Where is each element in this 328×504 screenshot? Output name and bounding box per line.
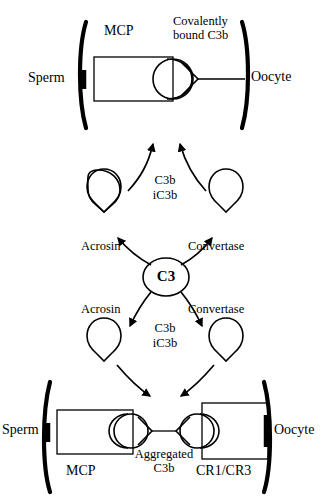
oocyte-membrane-top [242,22,248,128]
c3b-free-upper-left [88,170,120,212]
oocyte-label-top: Oocyte [251,70,291,84]
c3-label: C3 [146,269,186,284]
arrow-acrosin-lower [130,292,151,326]
sperm-label-bottom: Sperm [2,423,39,437]
aggregated-c3b-label-line1: Aggregated [125,448,203,461]
aggregated-c3b-left-circle [114,414,148,448]
complement-pathway-figure: Sperm Oocyte MCP Covalently bound C3b C3… [0,0,328,504]
c3b-free-lower-left [87,318,121,361]
arrow-left-to-bottom-membrane [117,365,150,396]
lower-acrosin-label: Acrosin [81,303,121,316]
oocyte-label-bottom: Oocyte [274,423,314,437]
c3b-free-upper-left-body [87,169,121,212]
sperm-label-top: Sperm [28,71,65,85]
c3b-free-lower-right [209,318,243,361]
aggregated-c3b-label-line2: C3b [125,462,203,475]
covalent-c3b-label-line1: Covalently [173,15,228,28]
covalent-c3b-label-line2: bound C3b [173,29,228,42]
mcp-label-bottom: MCP [66,464,96,478]
upper-ic3b-label: iC3b [140,189,190,202]
upper-acrosin-label: Acrosin [81,240,121,253]
lower-c3b-label: C3b [140,322,190,335]
mcp-label-top: MCP [104,24,134,38]
lower-convertase-label: Convertase [188,303,244,316]
c3b-free-upper-right [209,169,243,212]
cr-receptor-bottom [202,403,268,459]
arrow-acrosin-upper [118,238,151,265]
aggregated-c3b-right-circle [180,414,214,448]
cr-receptor-label: CR1/CR3 [196,464,251,478]
upper-c3b-label: C3b [140,174,190,187]
lower-ic3b-label: iC3b [140,337,190,350]
arrow-right-to-bottom-membrane [181,365,214,396]
upper-convertase-label: Convertase [188,240,244,253]
